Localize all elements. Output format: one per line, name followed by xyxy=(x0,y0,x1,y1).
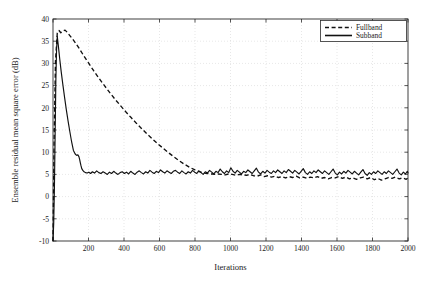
y-tick-label: 5 xyxy=(45,170,49,179)
x-axis-tick-labels: 200400600800100012001400160018002000 xyxy=(83,244,416,253)
figure-container: 200400600800100012001400160018002000 -10… xyxy=(0,0,425,287)
x-tick-label: 200 xyxy=(83,244,95,253)
x-tick-label: 1000 xyxy=(223,244,238,253)
y-tick-label: 10 xyxy=(41,148,49,157)
x-tick-label: 1400 xyxy=(294,244,309,253)
x-tick-label: 2000 xyxy=(400,244,415,253)
y-axis-title: Ensemble residual mean square error (dB) xyxy=(10,57,20,202)
x-tick-label: 600 xyxy=(154,244,166,253)
x-tick-label: 400 xyxy=(118,244,130,253)
x-tick-label: 1200 xyxy=(258,244,273,253)
x-axis-title: Iterations xyxy=(214,262,247,272)
y-tick-label: 25 xyxy=(41,81,49,90)
y-axis-tick-labels: -10-50510152025303540 xyxy=(39,15,49,246)
y-tick-label: -10 xyxy=(39,237,49,246)
y-tick-label: 35 xyxy=(41,37,49,46)
x-tick-label: 1600 xyxy=(329,244,344,253)
y-tick-label: 15 xyxy=(41,126,49,135)
y-tick-label: 0 xyxy=(45,192,49,201)
y-tick-label: 30 xyxy=(41,59,49,68)
y-tick-label: -5 xyxy=(43,215,50,224)
y-tick-label: 40 xyxy=(41,15,49,24)
legend-label-subband: Subband xyxy=(356,31,382,40)
legend: Fullband Subband xyxy=(321,21,407,42)
x-tick-label: 1800 xyxy=(365,244,380,253)
y-tick-label: 20 xyxy=(41,104,49,113)
x-tick-label: 800 xyxy=(189,244,201,253)
grid-lines xyxy=(53,19,408,241)
chart-canvas: 200400600800100012001400160018002000 -10… xyxy=(0,0,425,287)
